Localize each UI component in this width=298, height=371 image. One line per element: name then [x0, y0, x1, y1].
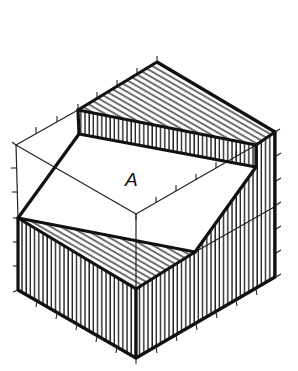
plane-label-a: A — [124, 169, 138, 190]
isometric-drawing: A — [0, 0, 298, 371]
